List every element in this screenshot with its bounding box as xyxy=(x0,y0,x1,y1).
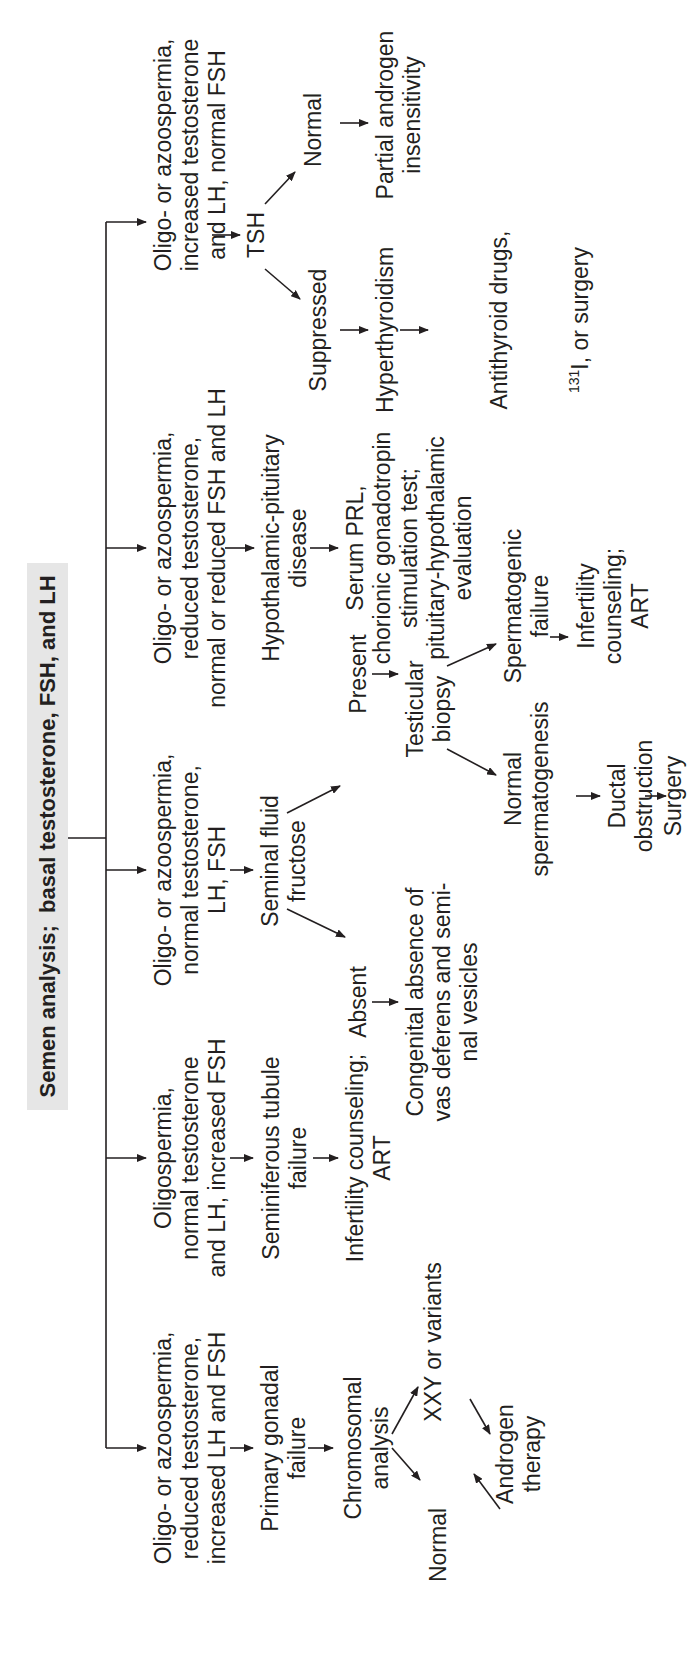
condition-seminal-fructose: Oligo- or azoospermia, normal testostero… xyxy=(150,754,231,987)
treatment-antithyroid-line2-text: I, or surgery xyxy=(567,247,593,370)
condition-seminiferous: Oligospermia, normal testosterone and LH… xyxy=(150,1038,231,1277)
diagnosis-seminiferous-tubule-failure: Seminiferous tubule failure xyxy=(258,1056,312,1259)
diagnosis-partial-androgen-insensitivity: Partial androgen insensitivity xyxy=(372,31,426,200)
result-fructose-absent: Absent xyxy=(345,966,372,1038)
result-spermatogenic-failure: Spermatogenic failure xyxy=(500,529,554,684)
test-testicular-biopsy: Testicular biopsy xyxy=(402,660,456,757)
result-tsh-normal: Normal xyxy=(300,93,327,167)
condition-hypothalamic: Oligo- or azoospermia, reduced testoster… xyxy=(150,388,231,708)
diagnosis-primary-gonadal-failure: Primary gonadal failure xyxy=(257,1364,311,1531)
result-xxy-variants: XXY or variants xyxy=(420,1262,447,1421)
treatment-infertility-counseling: Infertility counseling; ART xyxy=(342,1054,396,1262)
title-box: Semen analysis; basal testosterone, FSH,… xyxy=(27,563,68,1110)
result-normal-spermatogenesis: Normal spermatogenesis xyxy=(500,701,554,876)
treatment-spermatogenic-counseling: Infertility counseling; ART xyxy=(573,548,654,664)
diagnosis-ductal-obstruction: Ductal obstruction xyxy=(604,740,658,853)
treatment-androgen-therapy: Androgen therapy xyxy=(492,1404,546,1504)
test-chromosomal-analysis: Chromosomal analysis xyxy=(340,1376,394,1519)
condition-primary-gonadal: Oligo- or azoospermia, reduced testoster… xyxy=(150,1332,231,1565)
diagnosis-hyperthyroidism: Hyperthyroidism xyxy=(372,247,399,413)
test-tsh: TSH xyxy=(243,212,270,258)
result-tsh-suppressed: Suppressed xyxy=(305,269,332,392)
test-seminal-fluid-fructose: Seminal fluid fructose xyxy=(257,795,311,927)
result-normal-karyotype: Normal xyxy=(425,1508,452,1582)
iodine-131-superscript: 131 xyxy=(566,370,582,393)
condition-tsh-branch: Oligo- or azoospermia, increased testost… xyxy=(150,39,231,272)
treatment-antithyroid-line1: Antithyroid drugs, xyxy=(486,231,513,410)
diagnosis-hypothalamic-pituitary-disease: Hypothalamic-pituitary disease xyxy=(258,434,312,662)
treatment-antithyroid: Antithyroid drugs, 131I, or surgery xyxy=(432,231,648,410)
flowchart-canvas: Semen analysis; basal testosterone, FSH,… xyxy=(0,0,688,1669)
treatment-antithyroid-line2: 131I, or surgery xyxy=(567,231,594,410)
diagnosis-congenital-absence-vas: Congenital absence of vas deferens and s… xyxy=(402,882,483,1121)
treatment-surgery: Surgery xyxy=(660,756,687,837)
workup-serum-prl: Serum PRL, chorionic gonadotropin stimul… xyxy=(342,432,477,665)
